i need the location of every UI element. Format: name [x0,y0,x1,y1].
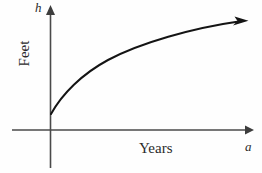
growth-curve [51,17,249,115]
graph-figure: h a Years Feet [0,0,262,173]
graph-canvas [0,0,262,173]
y-axis-title: Feet [17,28,32,80]
growth-curve-path [51,21,242,114]
x-axis-symbol-label: a [245,140,252,153]
x-axis-title: Years [139,141,172,156]
y-axis-arrowhead [46,5,55,15]
x-axis-arrowhead [245,126,254,135]
x-axis [12,126,254,135]
y-axis [46,5,55,168]
y-axis-symbol-label: h [35,1,42,14]
